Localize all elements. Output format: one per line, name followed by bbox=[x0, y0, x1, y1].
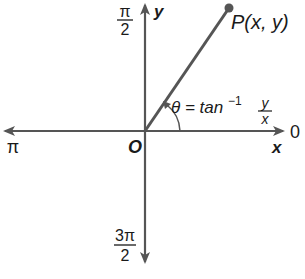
pi-angle-label: π bbox=[7, 137, 19, 157]
y-axis-label: y bbox=[153, 2, 165, 21]
top-angle-denominator: 2 bbox=[121, 21, 130, 38]
angle-equation: θ = tan −1 bbox=[171, 94, 242, 117]
angle-equation-lhs: θ = tan bbox=[171, 98, 223, 117]
angle-frac-numerator: y bbox=[261, 95, 270, 111]
top-angle-numerator: π bbox=[119, 3, 130, 20]
bottom-angle-numerator: 3π bbox=[115, 227, 135, 244]
origin-label: O bbox=[128, 137, 142, 157]
zero-angle-label: 0 bbox=[290, 122, 300, 142]
point-p-label: P(x, y) bbox=[231, 11, 289, 33]
x-axis-label: x bbox=[271, 138, 283, 157]
angle-equation-exponent: −1 bbox=[228, 94, 242, 108]
polar-diagram: π 2 y P(x, y) θ = tan −1 y x 0 x O π 3π … bbox=[0, 0, 305, 279]
angle-frac-denominator: x bbox=[261, 111, 270, 127]
bottom-angle-denominator: 2 bbox=[121, 247, 130, 264]
